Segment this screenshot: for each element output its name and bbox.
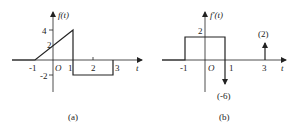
impulse-label-pos2: (2) bbox=[258, 29, 269, 39]
waveform-a bbox=[12, 30, 113, 75]
caption-a: (a) bbox=[68, 112, 78, 122]
x-tick-label-3-b: 3 bbox=[262, 63, 267, 73]
x-tick-label-1: 1 bbox=[68, 63, 73, 73]
origin-label-a: O bbox=[55, 63, 62, 73]
y-tick-label-2-b: 2 bbox=[198, 26, 203, 36]
x-tick-label-1-b: 1 bbox=[229, 63, 234, 73]
x-tick-label-neg1: -1 bbox=[29, 63, 37, 73]
x-axis-label-a: t bbox=[136, 63, 139, 73]
x-tick-label-2: 2 bbox=[91, 63, 96, 73]
caption-b: (b) bbox=[219, 112, 230, 122]
figure-b: f'(t) t O -1 1 3 2 (-6) (2) (b) bbox=[162, 10, 286, 122]
y-axis-label-a: f(t) bbox=[58, 10, 69, 20]
rect-pulse-b bbox=[162, 37, 225, 60]
y-tick-label-neg2: -2 bbox=[40, 71, 48, 81]
origin-label-b: O bbox=[208, 63, 215, 73]
y-axis-label-b: f'(t) bbox=[210, 10, 223, 20]
y-tick-label-4: 4 bbox=[42, 26, 47, 36]
y-tick-label-2: 2 bbox=[47, 40, 52, 50]
x-tick-label-neg1-b: -1 bbox=[180, 63, 188, 73]
signal-diagrams: f(t) t O -1 1 2 3 4 2 -2 (a) f'(t) t O -… bbox=[0, 0, 296, 128]
x-axis-label-b: t bbox=[281, 63, 284, 73]
x-tick-label-3: 3 bbox=[115, 63, 120, 73]
figure-a: f(t) t O -1 1 2 3 4 2 -2 (a) bbox=[12, 10, 142, 122]
impulse-label-neg6: (-6) bbox=[217, 91, 231, 101]
